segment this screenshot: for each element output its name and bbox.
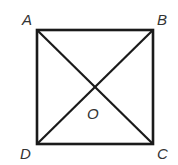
square-diagram: A B C D O xyxy=(0,0,178,165)
label-o: O xyxy=(87,105,99,122)
label-d: D xyxy=(20,145,31,162)
label-a: A xyxy=(21,11,32,28)
label-c: C xyxy=(157,145,168,162)
label-b: B xyxy=(157,11,167,28)
